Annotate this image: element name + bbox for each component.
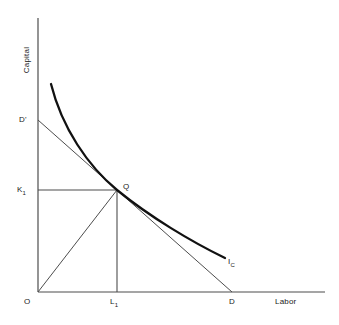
expansion-ray-line (38, 190, 117, 292)
isoquant-subscript: C (230, 262, 235, 268)
tangency-point-label: Q (123, 183, 129, 191)
isoquant-isocost-figure: Capital D' K1 Q IC O L1 D Labor (0, 0, 339, 325)
labor-quantity-subscript: 1 (115, 302, 119, 308)
isocost-line (38, 120, 232, 292)
capital-quantity-label: K1 (17, 186, 26, 196)
isoquant-curve (51, 84, 225, 258)
labor-quantity-label: L1 (110, 298, 118, 308)
isoquant-curve-label: IC (228, 258, 235, 268)
isocost-y-intercept-label: D' (19, 116, 27, 124)
isocost-x-intercept-label: D (229, 298, 235, 306)
capital-quantity-subscript: 1 (23, 190, 27, 196)
diagram-canvas (0, 0, 339, 325)
y-axis-label: Capital (23, 47, 31, 73)
origin-label: O (24, 298, 30, 306)
x-axis-label: Labor (275, 298, 296, 306)
